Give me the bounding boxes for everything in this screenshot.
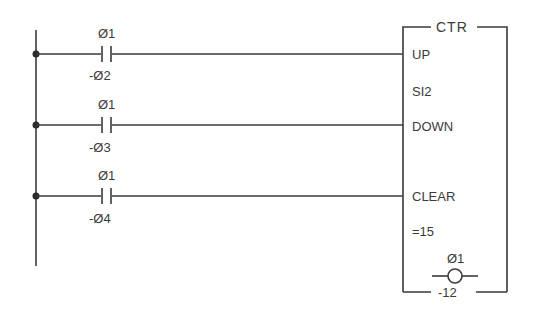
coil-label-top: Ø1: [447, 251, 464, 266]
rung-3: Ø1 -Ø4: [33, 168, 404, 226]
block-title: CTR: [436, 19, 468, 35]
contact-label-bottom: -Ø3: [89, 140, 111, 155]
contact-label-top: Ø1: [98, 168, 115, 183]
contact-label-bottom: -Ø2: [89, 68, 111, 83]
no-contact-icon[interactable]: [102, 117, 111, 133]
ladder-diagram: Ø1 -Ø2 Ø1 -Ø3 Ø1 -Ø4 CTR UP SI2 DOWN CLE…: [0, 0, 537, 312]
output-coil-icon[interactable]: [432, 269, 478, 283]
contact-label-top: Ø1: [98, 26, 115, 41]
rung-1: Ø1 -Ø2: [33, 26, 404, 83]
contact-label-top: Ø1: [98, 97, 115, 112]
rung-2: Ø1 -Ø3: [33, 97, 404, 155]
input-label-down: DOWN: [412, 119, 453, 134]
counter-function-block[interactable]: CTR UP SI2 DOWN CLEAR =15 Ø1 -12: [403, 19, 507, 300]
contact-label-bottom: -Ø4: [89, 211, 111, 226]
coil-label-bottom: -12: [438, 285, 457, 300]
no-contact-icon[interactable]: [102, 188, 111, 204]
input-label-up: UP: [412, 47, 430, 62]
preset-value: =15: [412, 224, 434, 239]
block-address: SI2: [412, 84, 432, 99]
no-contact-icon[interactable]: [102, 46, 111, 62]
input-label-clear: CLEAR: [412, 189, 455, 204]
